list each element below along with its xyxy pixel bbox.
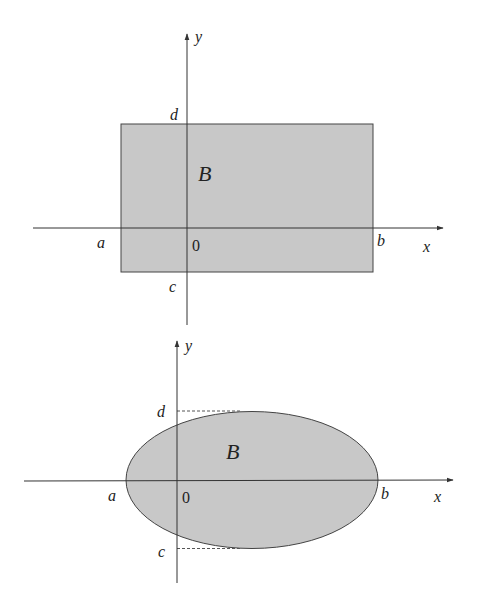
bound-label-c: c <box>158 543 165 560</box>
region-label: B <box>198 161 211 186</box>
region-label: B <box>226 439 239 464</box>
bound-label-a: a <box>108 487 116 504</box>
x-axis <box>24 480 453 481</box>
bound-label-b: b <box>377 232 385 249</box>
origin-label: 0 <box>182 489 190 506</box>
y-axis-label: y <box>193 28 203 46</box>
bound-label-d: d <box>157 403 166 420</box>
x-axis-label: x <box>422 238 430 255</box>
x-axis-label: x <box>433 488 441 505</box>
bound-label-c: c <box>169 278 176 295</box>
bound-label-b: b <box>381 485 389 502</box>
rectangle-region <box>121 124 373 272</box>
bound-label-a: a <box>97 234 105 251</box>
y-axis-label: y <box>183 337 193 355</box>
bound-label-d: d <box>170 106 179 123</box>
rectangle-diagram: y x d c a b 0 B <box>33 28 443 325</box>
origin-label: 0 <box>192 237 200 254</box>
ellipse-diagram: y x d c a b 0 B <box>24 337 453 583</box>
figure: y x d c a b 0 B y x d c a b 0 B <box>0 0 478 609</box>
